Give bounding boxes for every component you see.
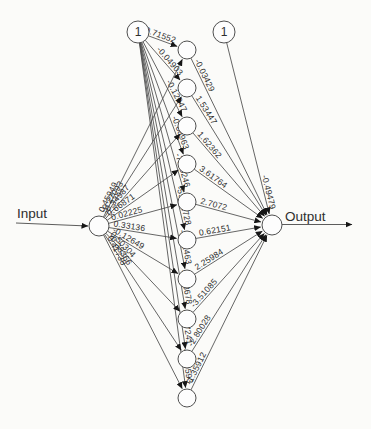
hidden-node-6 (178, 231, 196, 249)
input-node (89, 216, 109, 236)
hidden-node-3 (178, 117, 196, 135)
hidden-node-8 (178, 310, 196, 328)
hidden-node-7 (178, 270, 196, 288)
hidden-node-2 (178, 79, 196, 97)
weight-label-hidden-output-5: 2.7072 (200, 196, 229, 213)
bias-output-label: 1 (221, 25, 228, 39)
weight-label-hidden-output-2: 1.53447 (194, 94, 219, 127)
weight-label-hidden-output-3: 1.62362 (196, 129, 225, 160)
weight-label-hidden-output-7: 2.25984 (193, 246, 226, 272)
edge-bias-hidden-8 (140, 43, 185, 309)
neural-network-diagram: 0.71552-0.04903-0.12047-0.08963-7.60246-… (0, 0, 371, 429)
bias-hidden-label: 1 (135, 25, 142, 39)
output-label: Output (285, 209, 326, 224)
edge-input-hidden-10 (104, 235, 183, 389)
hidden-node-1 (178, 41, 196, 59)
input-label: Input (17, 206, 47, 221)
hidden-node-5 (178, 193, 196, 211)
weight-label-hidden-output-4: 3.61764 (198, 163, 230, 190)
edge-hidden-output-8 (193, 234, 264, 313)
hidden-node-9 (178, 350, 196, 368)
diagram-svg: 0.71552-0.04903-0.12047-0.08963-7.60246-… (0, 0, 371, 429)
hidden-node-10 (178, 389, 196, 407)
output-node (262, 215, 282, 235)
hidden-node-4 (178, 155, 196, 173)
input-arrow (16, 223, 88, 226)
